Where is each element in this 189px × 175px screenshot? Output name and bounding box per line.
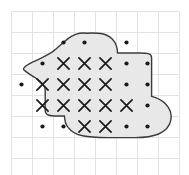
partial-square-dot-icon xyxy=(124,124,128,128)
grid-area-figure: Irregular region overlaid on a square gr… xyxy=(0,0,189,175)
partial-square-dot-icon xyxy=(40,124,44,128)
partial-square-dot-icon xyxy=(61,124,65,128)
partial-square-dot-icon xyxy=(124,40,128,44)
partial-square-dot-icon xyxy=(145,82,149,86)
partial-square-dot-icon xyxy=(61,40,65,44)
partial-square-dot-icon xyxy=(82,40,86,44)
partial-square-dot-icon xyxy=(145,103,149,107)
figure-canvas xyxy=(0,0,189,175)
partial-square-dot-icon xyxy=(124,61,128,65)
partial-square-dot-icon xyxy=(145,61,149,65)
partial-square-dot-icon xyxy=(145,124,149,128)
partial-square-dot-icon xyxy=(40,61,44,65)
partial-square-dot-icon xyxy=(19,82,23,86)
partial-square-dot-icon xyxy=(124,82,128,86)
